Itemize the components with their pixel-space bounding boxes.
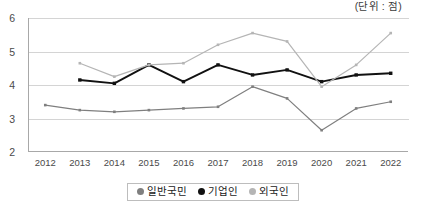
legend-item[interactable]: 일반국민 — [137, 186, 187, 197]
gridline — [29, 119, 409, 120]
chart-legend: 일반국민기업인외국인 — [127, 183, 299, 201]
gridline — [29, 52, 409, 53]
legend-marker-icon — [249, 188, 256, 195]
x-axis-tick-label: 2021 — [346, 157, 367, 168]
gridline — [29, 18, 409, 19]
x-axis-tick-label: 2013 — [69, 157, 90, 168]
legend-marker-icon — [198, 188, 205, 195]
x-axis-tick-label: 2015 — [138, 157, 159, 168]
y-axis-tick-label: 6 — [0, 12, 15, 24]
gridline — [29, 85, 409, 86]
legend-marker-icon — [137, 188, 144, 195]
x-axis-tick-label: 2022 — [380, 157, 401, 168]
y-axis-tick-label: 3 — [0, 113, 15, 125]
plot-area — [28, 18, 408, 152]
x-axis-tick-label: 2017 — [207, 157, 228, 168]
x-axis-tick-label: 2016 — [173, 157, 194, 168]
x-axis-tick-label: 2020 — [311, 157, 332, 168]
line-chart: (단위 : 점) 23456 2012201320142015201620172… — [0, 0, 426, 208]
legend-label: 일반국민 — [147, 186, 187, 197]
legend-item[interactable]: 기업인 — [198, 186, 238, 197]
x-axis-tick-label: 2019 — [277, 157, 298, 168]
y-axis-tick-label: 2 — [0, 146, 15, 158]
y-axis-tick-label: 4 — [0, 79, 15, 91]
x-axis-tick-label: 2018 — [242, 157, 263, 168]
legend-item[interactable]: 외국인 — [249, 186, 289, 197]
y-axis-tick-label: 5 — [0, 46, 15, 58]
legend-label: 기업인 — [208, 186, 238, 197]
unit-label: (단위 : 점) — [355, 0, 402, 13]
x-axis-tick-label: 2014 — [104, 157, 125, 168]
legend-label: 외국인 — [259, 186, 289, 197]
x-axis-tick-label: 2012 — [35, 157, 56, 168]
